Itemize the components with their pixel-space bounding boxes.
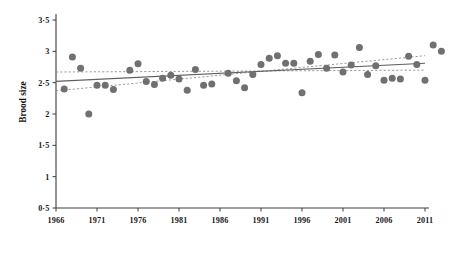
- y-tick-label: 2: [45, 110, 49, 119]
- data-point: [372, 62, 379, 69]
- data-point: [143, 78, 150, 85]
- data-point: [258, 61, 265, 68]
- data-point: [69, 53, 76, 60]
- data-point: [331, 52, 338, 59]
- data-point: [85, 111, 92, 118]
- x-tick-label: 1976: [130, 216, 147, 225]
- data-point: [233, 77, 240, 84]
- data-point: [356, 44, 363, 51]
- data-point: [413, 61, 420, 68]
- data-point: [241, 84, 248, 91]
- x-tick-label: 1996: [294, 216, 311, 225]
- data-point: [397, 75, 404, 82]
- data-points-group: [61, 42, 445, 118]
- data-point: [200, 82, 207, 89]
- data-point: [208, 80, 215, 87]
- data-point: [225, 70, 232, 77]
- data-point: [381, 77, 388, 84]
- data-point: [405, 53, 412, 60]
- x-tick-label: 1986: [212, 216, 229, 225]
- data-point: [340, 69, 347, 76]
- data-point: [110, 86, 117, 93]
- y-tick-label: 3: [45, 47, 49, 56]
- axes-group: 0·511·522·533·51966197119761981198619911…: [38, 14, 433, 225]
- y-tick-label: 2·5: [38, 79, 49, 88]
- y-tick-label: 3·5: [38, 16, 49, 25]
- x-tick-label: 1966: [48, 216, 65, 225]
- x-tick-label: 2006: [376, 216, 393, 225]
- data-point: [315, 51, 322, 58]
- y-tick-label: 1·5: [38, 141, 49, 150]
- data-point: [249, 71, 256, 78]
- data-point: [77, 65, 84, 72]
- chart-figure: 0·511·522·533·51966197119761981198619911…: [0, 0, 452, 275]
- data-point: [94, 82, 101, 89]
- data-point: [135, 60, 142, 67]
- x-tick-label: 2011: [417, 216, 434, 225]
- data-point: [422, 77, 429, 84]
- data-point: [151, 81, 158, 88]
- data-point: [290, 60, 297, 67]
- data-point: [307, 58, 314, 65]
- y-axis-title: Brood size: [18, 81, 28, 122]
- data-point: [266, 55, 273, 62]
- data-point: [192, 66, 199, 73]
- y-tick-label: 1: [45, 173, 49, 182]
- data-point: [282, 60, 289, 67]
- y-tick-label: 0·5: [38, 204, 49, 213]
- data-point: [167, 72, 174, 79]
- data-point: [389, 75, 396, 82]
- x-tick-label: 2001: [335, 216, 352, 225]
- data-point: [299, 89, 306, 96]
- data-point: [184, 87, 191, 94]
- x-tick-label: 1981: [171, 216, 188, 225]
- data-point: [323, 65, 330, 72]
- x-tick-label: 1971: [89, 216, 106, 225]
- x-tick-label: 1991: [253, 216, 270, 225]
- data-point: [364, 71, 371, 78]
- data-point: [430, 42, 437, 49]
- data-point: [159, 75, 166, 82]
- data-point: [438, 48, 445, 55]
- data-point: [102, 82, 109, 89]
- data-point: [126, 67, 133, 74]
- data-point: [61, 85, 68, 92]
- scatter-plot-canvas: 0·511·522·533·51966197119761981198619911…: [0, 0, 452, 275]
- data-point: [176, 75, 183, 82]
- data-point: [348, 62, 355, 69]
- data-point: [274, 52, 281, 59]
